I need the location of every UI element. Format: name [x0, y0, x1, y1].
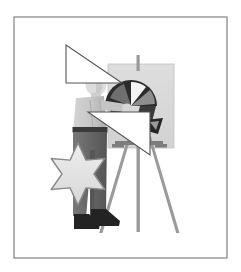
easel-tray-left: [112, 144, 124, 148]
figure-belt: [73, 127, 108, 133]
easel-top-post: [137, 55, 140, 71]
illustration-root: [0, 0, 241, 272]
easel-tray-right: [155, 144, 167, 148]
artwork-svg: [0, 0, 241, 272]
figure-hand: [122, 104, 132, 113]
